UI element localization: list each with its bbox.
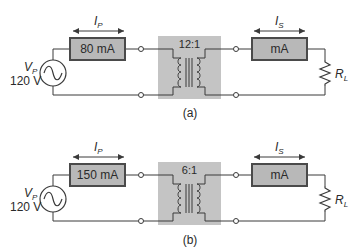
- source-voltage-value: 120 V: [10, 74, 41, 88]
- secondary-terminal-top: [234, 173, 239, 178]
- turns-ratio: 12:1: [179, 38, 200, 50]
- source-voltage-value: 120 V: [10, 200, 41, 214]
- transformer-circuits-diagram: IP VP 120 V 80 mA 12:1: [0, 0, 358, 249]
- primary-ammeter-reading: 150 mA: [77, 168, 118, 182]
- circuit-panel-b: IP VP 120 V 150 mA 6:1: [10, 140, 348, 247]
- secondary-current-indicator: IS: [254, 14, 305, 31]
- secondary-current-symbol: IS: [275, 140, 284, 156]
- resistor-zigzag-icon: [320, 60, 330, 86]
- primary-terminal-top: [139, 47, 144, 52]
- primary-current-symbol: IP: [94, 14, 103, 30]
- transformer: 6:1: [158, 162, 221, 225]
- turns-ratio: 6:1: [182, 164, 197, 176]
- secondary-terminal-bottom: [234, 219, 239, 224]
- primary-ammeter: 80 mA: [70, 38, 125, 60]
- transformer: 12:1: [158, 36, 221, 99]
- secondary-terminal-bottom: [234, 93, 239, 98]
- ac-source: VP 120 V: [10, 186, 66, 214]
- primary-ammeter-reading: 80 mA: [80, 42, 115, 56]
- primary-current-symbol: IP: [94, 140, 103, 156]
- resistor-zigzag-icon: [320, 186, 330, 212]
- secondary-ammeter-reading: mA: [271, 168, 289, 182]
- primary-current-indicator: IP: [73, 140, 124, 157]
- primary-terminal-bottom: [139, 93, 144, 98]
- load-resistor-symbol: RL: [335, 67, 348, 83]
- secondary-ammeter: mA: [252, 164, 307, 186]
- primary-terminal-bottom: [139, 219, 144, 224]
- panel-caption: (a): [183, 106, 198, 120]
- primary-current-indicator: IP: [73, 14, 124, 31]
- panel-caption: (b): [183, 233, 198, 247]
- secondary-ammeter: mA: [252, 38, 307, 60]
- load-resistor: RL: [320, 186, 348, 212]
- ac-source: VP 120 V: [10, 60, 66, 88]
- primary-terminal-top: [139, 173, 144, 178]
- circuit-panel-a: IP VP 120 V 80 mA 12:1: [10, 14, 348, 120]
- secondary-current-indicator: IS: [254, 140, 305, 157]
- secondary-current-symbol: IS: [275, 14, 284, 30]
- secondary-terminal-top: [234, 47, 239, 52]
- load-resistor-symbol: RL: [335, 193, 348, 209]
- load-resistor: RL: [320, 60, 348, 86]
- secondary-ammeter-reading: mA: [271, 42, 289, 56]
- primary-ammeter: 150 mA: [70, 164, 125, 186]
